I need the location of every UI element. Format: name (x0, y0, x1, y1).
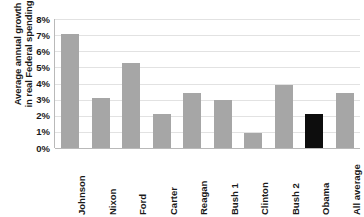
x-axis-tick-label: Bush 2 (289, 183, 303, 215)
x-axis-tick-label: Johnson (75, 175, 89, 215)
x-axis-tick-label: Carter (167, 187, 181, 215)
bar[interactable] (183, 93, 201, 148)
bar-slot (214, 19, 232, 148)
bar[interactable] (305, 114, 323, 148)
bar-slot (244, 19, 262, 148)
bar[interactable] (92, 98, 110, 148)
bar-slot (336, 19, 354, 148)
y-axis-tick-label: 4% (26, 78, 50, 89)
y-axis-tick-label: 2% (26, 110, 50, 121)
bar-slot (153, 19, 171, 148)
bars-layer (55, 19, 360, 148)
x-axis-tick-label: Obama (319, 183, 333, 215)
bar[interactable] (214, 100, 232, 148)
bar-slot (183, 19, 201, 148)
y-axis-tick-label: 7% (26, 30, 50, 41)
y-axis-tick-label: 6% (26, 46, 50, 57)
y-axis-tick-label: 1% (26, 126, 50, 137)
y-axis-tick-label: 8% (26, 14, 50, 25)
x-axis-tick-label: Ford (136, 194, 150, 215)
bar[interactable] (336, 93, 354, 148)
y-axis-tick-labels: 8%7%6%5%4%3%2%1%0% (26, 13, 50, 149)
bar-slot (122, 19, 140, 148)
bar[interactable] (244, 133, 262, 148)
x-axis-tick-labels: JohnsonNixonFordCarterReaganBush 1Clinto… (54, 149, 359, 217)
plot-area (54, 19, 360, 148)
bar-chart: Average annual growth in real Federal sp… (0, 0, 364, 217)
y-axis-tick-label: 0% (26, 143, 50, 154)
bar-slot (305, 19, 323, 148)
x-axis-tick-label: Bush 1 (228, 183, 242, 215)
bar-slot (275, 19, 293, 148)
bar-slot (61, 19, 79, 148)
bar[interactable] (61, 34, 79, 148)
y-axis-tick-label: 5% (26, 62, 50, 73)
x-axis-tick-label: Clinton (258, 182, 272, 215)
x-axis-tick-label: All average (350, 164, 364, 215)
y-axis-tick-label: 3% (26, 94, 50, 105)
x-axis-tick-label: Reagan (197, 181, 211, 215)
bar[interactable] (275, 85, 293, 148)
x-axis-tick-label: Nixon (106, 189, 120, 215)
bar-slot (92, 19, 110, 148)
bar[interactable] (153, 114, 171, 148)
bar[interactable] (122, 63, 140, 148)
